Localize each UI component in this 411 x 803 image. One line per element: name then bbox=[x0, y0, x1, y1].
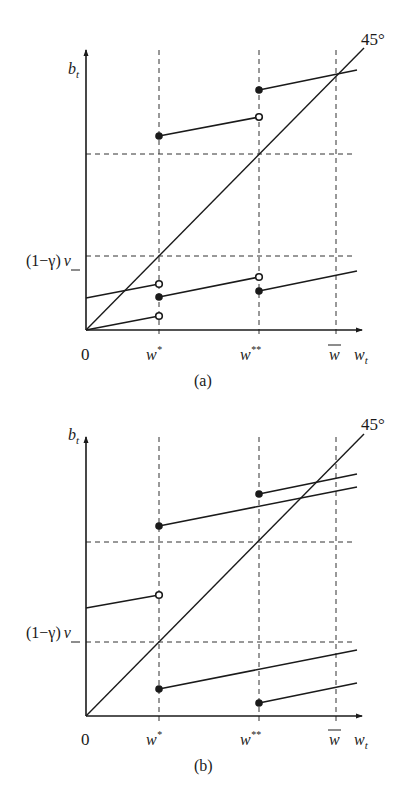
tick-label-wbar: w bbox=[329, 731, 340, 748]
segment-low-mid bbox=[159, 277, 259, 297]
filled-dot bbox=[155, 522, 163, 530]
tick-label-wstarstar: w** bbox=[240, 729, 261, 748]
segment-left-upper bbox=[86, 595, 159, 608]
open-dot bbox=[256, 114, 263, 121]
x-axis-label: wt bbox=[354, 346, 369, 366]
open-dot bbox=[156, 281, 163, 288]
panel-caption-a: (a) bbox=[194, 372, 212, 390]
policy-segments bbox=[86, 474, 357, 703]
x-axis-label: wt bbox=[354, 731, 369, 751]
panel-caption-b: (b) bbox=[194, 757, 213, 775]
open-dot bbox=[256, 274, 263, 281]
filled-dot bbox=[255, 699, 263, 707]
open-dot bbox=[156, 313, 163, 320]
origin-label: 0 bbox=[81, 345, 90, 364]
origin-label: 0 bbox=[81, 730, 90, 749]
line-45-degree bbox=[86, 48, 364, 330]
segment-low-mid bbox=[159, 650, 357, 689]
angle-label: 45° bbox=[361, 415, 385, 434]
tick-label-wstarstar: w** bbox=[240, 344, 261, 363]
panel-a: bt 45° (1−γ)ν 0 w* w** w wt (a) bbox=[26, 30, 385, 390]
filled-dot bbox=[255, 490, 263, 498]
guide-lines bbox=[86, 437, 352, 722]
hline-label: (1−γ)ν bbox=[26, 252, 72, 270]
segment-low-right bbox=[259, 271, 357, 291]
open-dot bbox=[156, 592, 163, 599]
tick-label-wbar: w bbox=[329, 346, 340, 363]
policy-segments bbox=[86, 70, 357, 330]
segment-low-right bbox=[259, 683, 357, 703]
hline-label: (1−γ)ν bbox=[26, 624, 72, 642]
guide-lines bbox=[86, 50, 352, 336]
filled-dot bbox=[255, 86, 263, 94]
tick-label-wstar: w* bbox=[146, 729, 162, 748]
segment-upper-right bbox=[259, 70, 357, 90]
filled-dot bbox=[155, 293, 163, 301]
filled-dot bbox=[155, 132, 163, 140]
y-axis-label: bt bbox=[68, 60, 80, 80]
filled-dot bbox=[155, 685, 163, 693]
filled-dot bbox=[255, 287, 263, 295]
panel-b: bt 45° (1−γ)ν 0 w* w** w wt (b) bbox=[26, 415, 385, 775]
points bbox=[155, 490, 263, 707]
angle-label: 45° bbox=[361, 30, 385, 49]
segment-low-left-upper bbox=[86, 284, 159, 298]
segment-upper-mid bbox=[159, 117, 259, 136]
tick-label-wstar: w* bbox=[146, 344, 162, 363]
points bbox=[155, 86, 263, 319]
y-axis-label: bt bbox=[68, 426, 80, 446]
figure-canvas: bt 45° (1−γ)ν 0 w* w** w wt (a) bbox=[0, 0, 411, 803]
line-45-degree bbox=[86, 434, 364, 716]
